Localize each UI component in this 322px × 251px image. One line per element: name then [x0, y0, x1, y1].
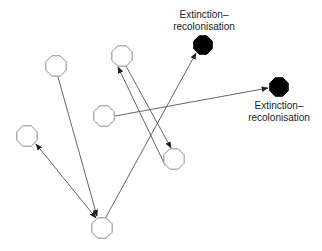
extinction-label-right: Extinction– recolonisation — [240, 100, 318, 124]
habitat-patch-b — [112, 46, 132, 66]
habitat-patch-a — [46, 56, 66, 76]
habitat-patch-f — [164, 149, 184, 169]
habitat-patch-c — [94, 106, 114, 126]
extinct-patch-h — [270, 78, 288, 96]
label-line-1: Extinction– — [240, 100, 318, 112]
dispersal-edges — [36, 53, 268, 218]
label-line-2: recolonisation — [165, 21, 243, 33]
extinction-label-top: Extinction– recolonisation — [165, 9, 243, 33]
extinct-patch-g — [194, 36, 212, 54]
habitat-patch-d — [17, 126, 37, 146]
label-line-1: Extinction– — [165, 9, 243, 21]
label-line-2: recolonisation — [240, 112, 318, 124]
dispersal-arrow-f-b — [118, 67, 165, 165]
metapopulation-diagram — [0, 0, 322, 251]
habitat-patch-e — [92, 218, 112, 238]
habitat-patches — [17, 36, 288, 238]
